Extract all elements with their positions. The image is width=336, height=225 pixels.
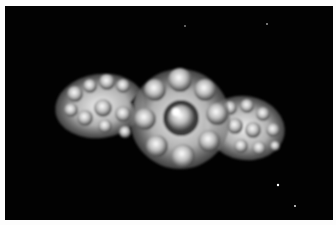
- photo: [5, 6, 333, 220]
- image-frame: [0, 0, 336, 225]
- center-cluster: [130, 68, 230, 169]
- diamond-ring-photo: [5, 6, 333, 220]
